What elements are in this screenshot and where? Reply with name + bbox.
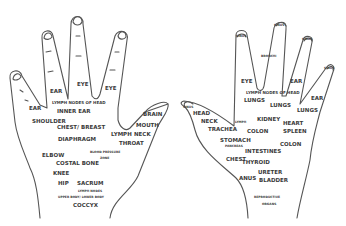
label-left-blood-pressure: BLOOD PRESSURE [90,151,120,154]
label-right-colon-1: COLON [247,129,268,135]
label-right-ear-1: EAR [290,79,302,85]
label-left-blood-pressure-zone: ZONE [100,157,109,160]
label-left-eye-middle: EYE [77,82,89,88]
label-right-anus: ANUS [239,176,256,182]
label-right-colon-2: COLON [280,142,301,148]
label-left-costal-bone: COSTAL BONE [56,161,99,167]
label-right-organs: ORGANS [262,203,276,206]
label-right-lymph-head: LYMPH NODES OF HEAD [246,91,300,95]
label-right-lungs-1: LUNGS [244,98,265,104]
label-right-sinus-1: SINUS [236,35,246,38]
label-left-throat: THROAT [119,141,144,147]
label-left-hip: HIP [58,181,69,187]
label-right-sinus-2: SINUS [274,24,284,27]
label-left-sacrum: SACRUM [77,181,103,187]
label-right-lungs-2: LUNGS [270,103,291,109]
label-right-reproductive: REPRODUCTIVE [254,196,280,199]
label-right-ureter: URETER [258,170,282,176]
label-right-ear-2: EAR [311,96,323,102]
label-right-head: HEAD [193,111,210,117]
label-right-lungs-3: LUNGS [297,108,318,114]
label-left-coccyx: COCCYX [73,203,98,209]
label-left-elbow: ELBOW [42,153,64,159]
label-left-lymph: LYMPH [111,132,132,138]
label-right-bronchi: BRONCHI [261,55,277,58]
label-right-sinus-thumb: SINUS [183,106,193,109]
label-right-heart: HEART [283,121,303,127]
label-left-lymph-nodes: LYMPH NODES [78,190,102,193]
label-left-chest-breast: CHEST/ BREAST [57,125,105,131]
label-right-pancreas: PANCREAS [225,145,243,148]
label-right-stomach: STOMACH [220,138,251,144]
label-right-thyroid: THYROID [242,160,270,166]
label-left-inner-ear: INNER EAR [57,109,90,115]
label-right-bladder: BLADDER [259,178,288,184]
hands-outline [0,0,346,226]
label-left-ear-finger: EAR [50,89,62,95]
label-left-upper-lower-body: UPPER BODY/ LOWER BODY [58,196,104,199]
label-left-lymph-head: LYMPH NODES OF HEAD [52,101,106,105]
label-left-knee: KNEE [53,171,69,177]
label-right-lymph: LYMPH [235,121,246,124]
label-left-diaphragm: DIAPHRAGM [58,137,96,143]
label-left-eye-index: EYE [105,86,117,92]
label-right-kidney: KIDNEY [257,117,280,123]
label-left-mouth: MOUTH [136,123,159,129]
label-right-intestines: INTESTINES [245,149,281,155]
label-right-trachea: TRACHEA [208,127,237,133]
label-right-sinus-3: SINUS [302,38,312,41]
label-right-sinus-4: SINUS [324,67,334,70]
label-left-neck: NECK [134,132,151,138]
label-right-spleen: SPLEEN [283,129,307,135]
label-left-ear-pinky: EAR [29,106,41,112]
label-right-eye: EYE [241,79,253,85]
label-right-neck: NECK [201,119,218,125]
label-left-brain: BRAIN [143,112,162,118]
